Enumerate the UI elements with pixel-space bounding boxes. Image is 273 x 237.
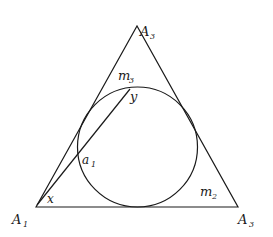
label-vertex-left: A 1 — [11, 212, 28, 229]
svg-text:3: 3 — [249, 220, 254, 229]
svg-text:3: 3 — [129, 76, 134, 85]
incircle — [78, 87, 198, 207]
svg-text:1: 1 — [23, 220, 28, 229]
label-y: y — [129, 89, 138, 104]
incircle-diagram: A 3 m 3 y a 1 x m 2 A 1 A 3 — [0, 0, 273, 237]
svg-text:3: 3 — [150, 32, 155, 41]
svg-text:2: 2 — [211, 192, 217, 201]
label-x: x — [47, 192, 54, 206]
svg-text:A: A — [139, 24, 149, 39]
svg-text:A: A — [11, 212, 21, 227]
svg-text:a: a — [82, 153, 89, 167]
label-m3: m 3 — [118, 68, 134, 85]
label-a1: a 1 — [82, 153, 96, 169]
label-vertex-top: A 3 — [139, 24, 155, 41]
label-vertex-right: A 3 — [237, 212, 254, 229]
label-m2: m 2 — [200, 184, 217, 201]
svg-text:A: A — [237, 212, 247, 227]
svg-text:1: 1 — [91, 160, 96, 169]
chord-line — [37, 89, 130, 205]
triangle — [36, 26, 238, 207]
svg-text:m: m — [200, 184, 212, 199]
